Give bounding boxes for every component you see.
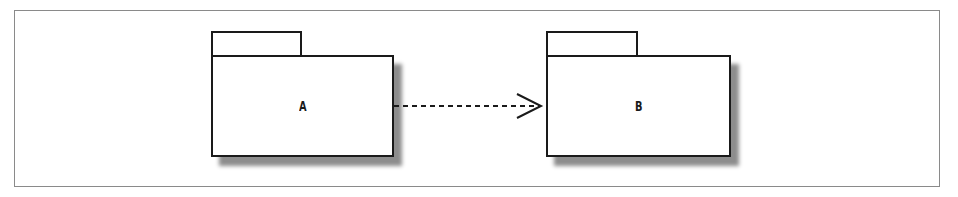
dependency-arrow [0,0,958,197]
